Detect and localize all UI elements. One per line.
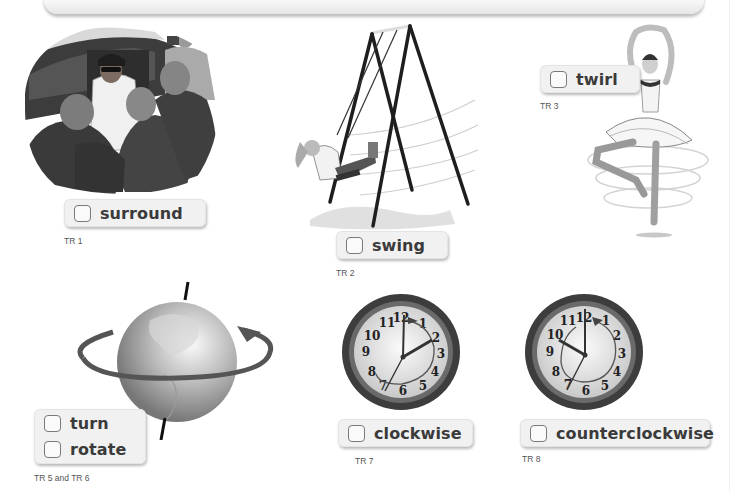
svg-text:3: 3 <box>437 347 445 361</box>
counterclockwise-word: counterclockwise <box>556 424 714 443</box>
twirl-option[interactable]: twirl <box>550 66 630 92</box>
twirl-word: twirl <box>576 70 618 89</box>
header-banner <box>44 0 704 14</box>
clockwise-word: clockwise <box>374 424 462 443</box>
rotate-option[interactable]: rotate <box>44 437 136 463</box>
turn-checkbox[interactable] <box>44 415 61 432</box>
rotate-word: rotate <box>70 440 126 459</box>
counterclockwise-clock-illustration: 1212 345 678 91011 <box>523 292 645 412</box>
track-surround: TR 1 <box>64 236 82 246</box>
svg-text:5: 5 <box>601 379 609 393</box>
svg-text:9: 9 <box>546 345 554 359</box>
svg-text:1: 1 <box>602 314 610 328</box>
rotate-checkbox[interactable] <box>44 441 61 458</box>
surround-illustration <box>15 20 225 195</box>
surround-word: surround <box>100 204 183 223</box>
vocab-label-swing[interactable]: swing <box>336 231 448 259</box>
clockwise-clock-illustration: 1212 345 678 91011 <box>340 292 462 412</box>
counterclockwise-option[interactable]: counterclockwise <box>530 420 700 446</box>
svg-text:8: 8 <box>368 365 376 379</box>
svg-text:4: 4 <box>613 365 621 379</box>
twirl-checkbox[interactable] <box>550 71 567 88</box>
twirl-illustration <box>578 22 713 247</box>
swing-illustration <box>280 20 480 230</box>
svg-text:11: 11 <box>379 316 396 330</box>
svg-text:5: 5 <box>419 379 427 393</box>
svg-text:11: 11 <box>560 314 577 328</box>
page-edge-rule <box>729 0 730 492</box>
vocab-label-turn-rotate[interactable]: turn rotate <box>34 409 146 464</box>
turn-option[interactable]: turn <box>44 411 136 437</box>
counterclockwise-checkbox[interactable] <box>530 425 547 442</box>
svg-text:7: 7 <box>564 378 572 392</box>
vocab-label-surround[interactable]: surround <box>64 199 206 227</box>
track-swing: TR 2 <box>336 268 354 278</box>
swing-option[interactable]: swing <box>346 232 438 258</box>
turn-word: turn <box>70 414 109 433</box>
svg-text:6: 6 <box>582 384 590 398</box>
track-twirl: TR 3 <box>540 101 558 111</box>
track-turn-rotate: TR 5 and TR 6 <box>34 473 90 483</box>
vocab-label-twirl[interactable]: twirl <box>540 65 640 93</box>
svg-text:3: 3 <box>618 347 626 361</box>
surround-checkbox[interactable] <box>74 205 91 222</box>
vocab-label-clockwise[interactable]: clockwise <box>338 419 473 447</box>
svg-text:1: 1 <box>419 317 427 331</box>
swing-checkbox[interactable] <box>346 237 363 254</box>
svg-text:10: 10 <box>364 329 381 343</box>
svg-text:8: 8 <box>552 365 560 379</box>
svg-text:6: 6 <box>399 384 407 398</box>
track-clockwise: TR 7 <box>355 456 373 466</box>
surround-option[interactable]: surround <box>74 200 196 226</box>
track-counterclockwise: TR 8 <box>522 454 540 464</box>
swing-word: swing <box>372 236 425 255</box>
clockwise-checkbox[interactable] <box>348 425 365 442</box>
svg-text:9: 9 <box>362 345 370 359</box>
vocab-label-counterclockwise[interactable]: counterclockwise <box>520 419 710 447</box>
clockwise-option[interactable]: clockwise <box>348 420 463 446</box>
svg-text:4: 4 <box>431 365 439 379</box>
